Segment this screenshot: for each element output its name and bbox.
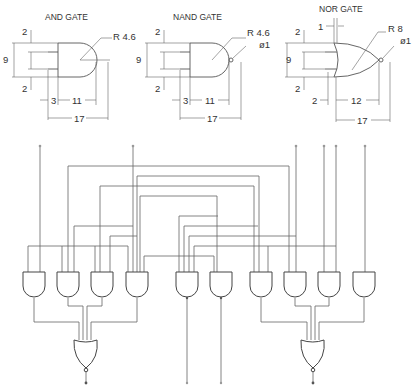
svg-text:17: 17 — [207, 113, 218, 124]
svg-text:2: 2 — [155, 26, 160, 37]
inversion-bubble — [229, 58, 233, 62]
svg-text:2: 2 — [155, 83, 160, 94]
and-gate-8 — [284, 272, 306, 297]
svg-text:3: 3 — [183, 95, 188, 106]
svg-text:R 8: R 8 — [388, 23, 403, 34]
nor-gate-right — [301, 340, 324, 384]
and-gate-10 — [353, 272, 375, 297]
and-gate-2 — [57, 272, 79, 297]
svg-text:3: 3 — [51, 95, 56, 106]
and-gate-6 — [210, 272, 232, 297]
svg-text:17: 17 — [74, 113, 85, 124]
bus-wires — [28, 166, 336, 272]
and-gate-5 — [176, 272, 198, 297]
nand-gate-figure: NAND GATE 2 9 2 R 4.6 ø1 3 11 17 — [136, 12, 270, 124]
svg-text:2: 2 — [295, 83, 300, 94]
svg-text:9: 9 — [136, 54, 141, 65]
svg-text:ø1: ø1 — [400, 35, 411, 46]
and-gate-1 — [23, 272, 45, 297]
svg-text:2: 2 — [312, 95, 317, 106]
and-gate-7 — [250, 272, 272, 297]
nor-gate-title: NOR GATE — [319, 4, 363, 14]
nand-gate-title: NAND GATE — [173, 12, 222, 22]
svg-text:ø1: ø1 — [259, 39, 270, 50]
svg-text:9: 9 — [3, 54, 8, 65]
svg-text:2: 2 — [22, 26, 27, 37]
svg-text:1: 1 — [318, 21, 323, 32]
svg-text:12: 12 — [351, 95, 362, 106]
svg-text:R 4.6: R 4.6 — [247, 27, 270, 38]
svg-text:9: 9 — [286, 54, 291, 65]
svg-text:2: 2 — [295, 26, 300, 37]
and-gate-row — [23, 272, 375, 297]
svg-text:17: 17 — [357, 115, 368, 126]
input-terminals — [39, 145, 367, 272]
and-gate-9 — [318, 272, 340, 297]
and-gate-3 — [91, 272, 113, 297]
nor-gate-shape — [334, 43, 379, 77]
svg-text:R 4.6: R 4.6 — [113, 31, 136, 42]
svg-text:2: 2 — [22, 83, 27, 94]
svg-text:11: 11 — [205, 95, 215, 106]
and-gate-4 — [126, 272, 148, 297]
and-gate-title: AND GATE — [45, 12, 88, 22]
nor-gate-figure: NOR GATE 1 2 9 2 R 8 ø1 2 12 — [285, 4, 411, 126]
and-gate-figure: AND GATE 2 9 2 R 4.6 3 11 17 — [3, 12, 136, 124]
svg-text:11: 11 — [72, 95, 82, 106]
nor-gate-left — [74, 340, 97, 384]
circuit-diagram — [23, 145, 375, 385]
